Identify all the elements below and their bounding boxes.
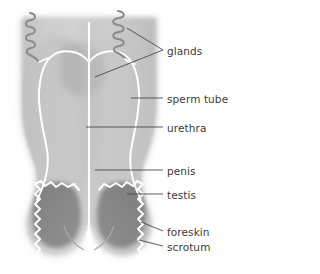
urethral-opening [86, 228, 92, 250]
label-urethra: urethra [167, 123, 206, 134]
label-penis: penis [167, 166, 196, 177]
label-glands: glands [167, 46, 202, 57]
label-scrotum: scrotum [167, 242, 210, 253]
label-sperm-tube: sperm tube [167, 94, 228, 105]
label-foreskin: foreskin [167, 227, 210, 238]
label-testis: testis [167, 190, 196, 201]
midline-shading [80, 20, 102, 230]
